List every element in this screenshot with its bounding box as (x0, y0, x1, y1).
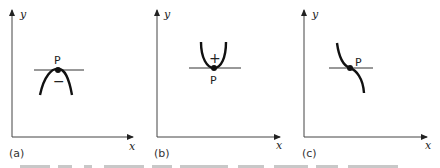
x-axis-label: x (425, 139, 432, 152)
y-axis-label: y (19, 8, 27, 21)
curvature-sign: + (209, 50, 221, 66)
x-axis-label: x (129, 140, 136, 153)
panel-a: y x P − (a) (9, 8, 136, 160)
curvature-sign: − (53, 73, 65, 89)
cropped-caption (18, 164, 418, 168)
x-axis-label: x (276, 139, 283, 152)
panel-b: y x P + (b) (154, 8, 283, 160)
panel-c: y x P (c) (302, 8, 432, 160)
panel-label: (b) (154, 147, 170, 160)
panel-label: (c) (302, 147, 317, 160)
y-axis-label: y (311, 8, 319, 21)
stationary-point (347, 65, 353, 71)
stationary-points-figure: y x P − (a) y x P + (b) y x P (c) (0, 0, 440, 168)
point-label: P (355, 56, 362, 69)
point-label: P (54, 54, 61, 67)
y-axis-label: y (163, 8, 171, 21)
panel-label: (a) (9, 147, 24, 160)
point-label: P (210, 74, 217, 87)
